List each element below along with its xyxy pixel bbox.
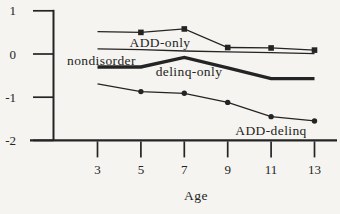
series-label-delinq-only: delinq-only <box>156 64 223 79</box>
marker-square-ADD-only <box>312 47 318 53</box>
x-axis-title: Age <box>184 188 208 203</box>
x-tick-label: 13 <box>308 162 321 177</box>
marker-square-ADD-only <box>225 45 231 51</box>
marker-dot-ADD-delinq <box>182 91 187 96</box>
y-tick-label: -1 <box>5 90 16 105</box>
x-tick-label: 9 <box>224 162 231 177</box>
y-tick-label: 0 <box>10 47 17 62</box>
figure: 10-1-235791113 delinq-onlyADD-onlynondis… <box>0 0 340 214</box>
marker-dot-ADD-delinq <box>312 118 317 123</box>
line-chart: 10-1-235791113 delinq-onlyADD-onlynondis… <box>0 0 340 214</box>
marker-dot-ADD-delinq <box>225 100 230 105</box>
series-line-ADD-delinq <box>98 84 315 121</box>
marker-square-ADD-only <box>182 26 188 32</box>
series-label-ADD-only: ADD-only <box>130 35 191 50</box>
x-tick-label: 11 <box>265 162 278 177</box>
marker-dot-ADD-delinq <box>138 89 143 94</box>
series-label-ADD-delinq: ADD-delinq <box>235 123 307 138</box>
marker-square-ADD-only <box>268 45 274 51</box>
series-label-nondisorder: nondisorder <box>67 53 136 68</box>
x-tick-label: 7 <box>181 162 188 177</box>
marker-dot-ADD-delinq <box>268 114 273 119</box>
x-tick-label: 3 <box>94 162 101 177</box>
y-tick-label: 1 <box>10 3 17 18</box>
x-tick-label: 5 <box>138 162 145 177</box>
y-tick-label: -2 <box>5 133 16 148</box>
